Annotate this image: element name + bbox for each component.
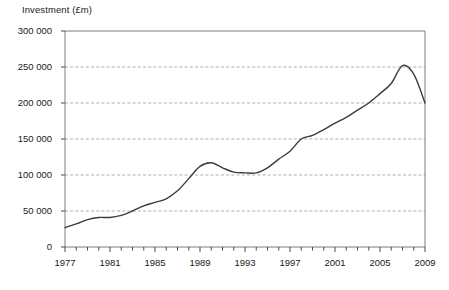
plot-area — [0, 0, 449, 290]
x-axis-ticks — [65, 247, 425, 252]
investment-line-chart: Investment (£m) 050 000100 000150 000200… — [0, 0, 449, 290]
y-axis-ticks — [61, 31, 65, 247]
gridlines — [65, 67, 425, 211]
data-series-line — [65, 65, 425, 227]
